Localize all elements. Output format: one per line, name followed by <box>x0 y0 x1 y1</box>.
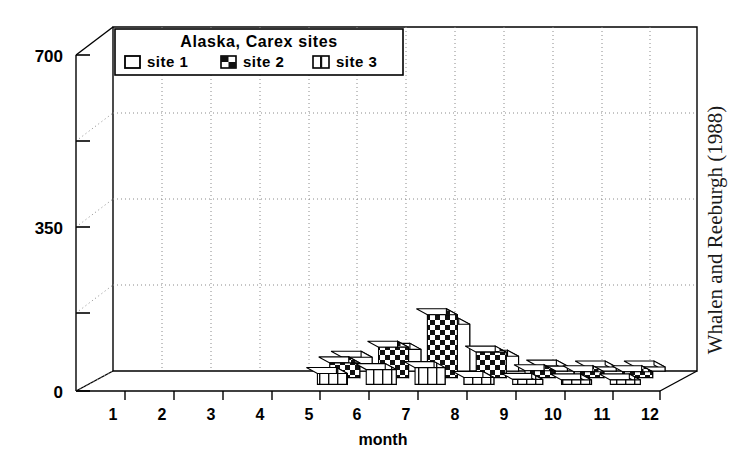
bar-front-face <box>562 380 592 384</box>
x-tick-label-12: 12 <box>641 406 659 423</box>
vertical-stripe-swatch <box>313 56 329 68</box>
bar-front-face <box>610 380 640 384</box>
blank-swatch <box>125 56 140 68</box>
x-tick-label-10: 10 <box>544 406 562 423</box>
y-tick-label-700: 700 <box>35 47 63 66</box>
legend-label-site-1: site 1 <box>147 53 188 70</box>
x-tick-label-2: 2 <box>158 406 167 423</box>
figure-credit: Whalen and Reeburgh (1988) <box>703 106 727 355</box>
x-tick-label-8: 8 <box>451 406 460 423</box>
x-tick-label-7: 7 <box>402 406 411 423</box>
legend: Alaska, Carex sites site 1 site 2 site 3 <box>115 29 403 75</box>
bar-front-face <box>464 377 494 384</box>
bar-front-face <box>366 370 396 385</box>
chart-figure: 700 350 0 1 2 3 4 5 6 7 8 9 <box>0 0 755 466</box>
x-tick-label-4: 4 <box>256 406 265 423</box>
checker-swatch <box>221 56 236 68</box>
x-tick-label-1: 1 <box>109 406 118 423</box>
x-tick-label-6: 6 <box>353 406 362 423</box>
bar-front-face <box>513 379 543 384</box>
legend-title: Alaska, Carex sites <box>180 33 337 50</box>
legend-label-site-3: site 3 <box>336 53 377 70</box>
y-tick-label-350: 350 <box>35 219 63 238</box>
x-tick-label-11: 11 <box>594 406 611 423</box>
y-tick-label-0: 0 <box>54 383 63 402</box>
x-tick-label-9: 9 <box>500 406 509 423</box>
x-axis-title: month <box>359 431 408 448</box>
x-tick-label-3: 3 <box>207 406 216 423</box>
bar-front-face <box>415 368 445 385</box>
bar-front-face <box>317 374 347 385</box>
bar-chart-3d: 700 350 0 1 2 3 4 5 6 7 8 9 <box>0 0 755 466</box>
x-tick-label-5: 5 <box>305 406 314 423</box>
legend-label-site-2: site 2 <box>243 53 284 70</box>
